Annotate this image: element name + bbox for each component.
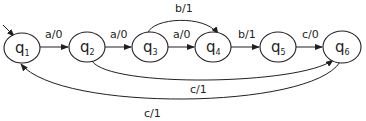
state-diagram: a/0 a/0 a/0 b/1 b/1 c/0 c/1 c/1 q1 q2 q3… [0,0,366,121]
label-q2-q3: a/0 [110,28,127,41]
state-q1: q1 [4,33,40,63]
label-q3-q4-a: a/0 [173,28,190,41]
start-arrow [3,25,14,36]
state-q4: q4 [195,32,231,62]
state-q2: q2 [69,32,105,62]
label-q4-q5: b/1 [238,28,256,41]
label-q3-q4-b: b/1 [175,2,193,15]
state-q5: q5 [260,32,296,62]
label-q2-q6: c/1 [190,83,207,96]
label-q6-q1: c/1 [144,107,161,120]
label-q5-q6: c/0 [302,28,319,41]
label-q1-q2: a/0 [45,28,62,41]
state-q3: q3 [132,32,168,62]
state-q6: q6 [323,31,361,63]
edge-q2-q6 [92,60,333,80]
edge-q6-q1 [21,62,340,99]
